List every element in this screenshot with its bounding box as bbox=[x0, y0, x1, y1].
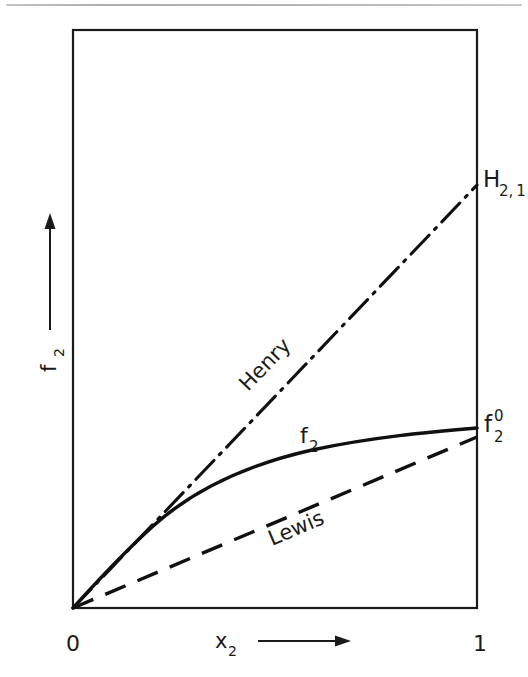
x-axis-arrow-head bbox=[335, 636, 351, 647]
x-axis-label-subscript: 2 bbox=[228, 643, 237, 659]
fugacity-curve-label-symbol: f bbox=[300, 423, 309, 448]
y-axis-label-group: f 2 bbox=[37, 213, 67, 372]
fugacity-curve bbox=[73, 428, 477, 608]
fugacity-curve-label-subscript: 2 bbox=[309, 438, 319, 456]
henry-constant-symbol: H bbox=[483, 166, 500, 192]
henry-curve-label-text: Henry bbox=[234, 333, 295, 395]
lewis-curve-label-text: Lewis bbox=[265, 506, 328, 551]
standard-state-subscript: 2 bbox=[494, 428, 504, 446]
x-tick-label-min: 0 bbox=[66, 631, 80, 656]
chart-canvas: f 2 x 2 0 1 Henry Lewis f 2 H 2, 1 bbox=[0, 0, 528, 677]
henry-curve-label: Henry bbox=[234, 333, 295, 395]
henry-constant-label: H 2, 1 bbox=[483, 166, 526, 200]
standard-state-superscript: 0 bbox=[494, 407, 504, 425]
lewis-randall-line bbox=[73, 437, 477, 608]
lewis-curve-label: Lewis bbox=[265, 506, 328, 551]
y-axis-label-subscript: 2 bbox=[51, 348, 67, 357]
standard-state-fugacity-label: f 2 0 bbox=[484, 407, 504, 446]
scan-artifact-line bbox=[6, 4, 522, 6]
standard-state-symbol: f bbox=[484, 411, 493, 437]
x-axis-label-group: x 2 bbox=[215, 629, 351, 659]
y-axis-label-symbol: f bbox=[37, 364, 61, 372]
x-tick-label-max: 1 bbox=[473, 631, 487, 656]
y-axis-arrow-head bbox=[45, 213, 56, 229]
x-axis-label-symbol: x bbox=[215, 629, 227, 653]
fugacity-diagram-figure: f 2 x 2 0 1 Henry Lewis f 2 H 2, 1 bbox=[0, 0, 528, 677]
henry-constant-subscript: 2, 1 bbox=[499, 182, 526, 200]
